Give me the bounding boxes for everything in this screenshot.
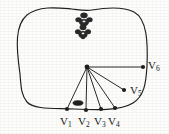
vertex-label-subscript: 3 xyxy=(102,120,106,129)
vertex-label-v2: V2 xyxy=(78,116,90,127)
vertex-dot-v6 xyxy=(141,65,145,69)
vertex-dot-v3 xyxy=(99,107,103,111)
vertex-dot-v2 xyxy=(84,108,88,112)
vertex-label-subscript: 4 xyxy=(116,120,120,129)
vertex-label-v6: V6 xyxy=(148,60,160,71)
vertex-label-v1: V1 xyxy=(60,116,72,127)
vertex-label-subscript: 5 xyxy=(138,89,142,98)
vertex-dot-v4 xyxy=(113,106,117,110)
vertex-label-letter: V xyxy=(60,115,68,127)
hub-vertex xyxy=(85,65,90,70)
vertex-label-subscript: 1 xyxy=(68,120,72,129)
obstacles-group xyxy=(73,12,93,105)
vertex-dot-v1 xyxy=(65,107,69,111)
vertex-dot-v5 xyxy=(122,88,126,92)
vertex-label-letter: V xyxy=(148,59,156,71)
vertex-label-v5: V5 xyxy=(130,85,142,96)
vertex-label-subscript: 2 xyxy=(86,120,90,129)
obstacle-blob-lower xyxy=(75,24,91,39)
vertex-label-letter: V xyxy=(130,84,138,96)
vertex-label-letter: V xyxy=(94,115,102,127)
figure-canvas: V1V2V3V4V5V6 xyxy=(0,0,169,134)
edge-hub-v3 xyxy=(87,67,101,109)
obstacle-blob-bottom xyxy=(73,101,83,106)
vertex-label-subscript: 6 xyxy=(156,64,160,73)
vertex-label-letter: V xyxy=(108,115,116,127)
vertex-label-letter: V xyxy=(78,115,86,127)
edge-hub-v4 xyxy=(87,67,115,108)
vertex-label-v3: V3 xyxy=(94,116,106,127)
vertex-label-v4: V4 xyxy=(108,116,120,127)
geometry-diagram xyxy=(0,0,169,134)
edge-hub-v5 xyxy=(87,67,124,90)
edge-hub-v2 xyxy=(86,67,87,110)
